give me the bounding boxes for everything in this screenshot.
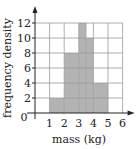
- y-tick-label: 4: [24, 77, 31, 90]
- histogram-bar: [86, 38, 93, 113]
- x-axis-label: mass (kg): [52, 133, 106, 146]
- origin-label: 0: [21, 111, 28, 124]
- y-tick-label: 6: [24, 62, 31, 75]
- histogram-bar: [50, 98, 65, 113]
- y-tick-label: 12: [17, 17, 31, 30]
- y-axis-arrow-icon: [33, 6, 38, 13]
- y-tick-label: 10: [17, 32, 31, 45]
- x-tick-label: 2: [61, 117, 68, 130]
- histogram-chart: 12345624681012 mass (kg) frequency densi…: [0, 0, 137, 149]
- grid-lines: [35, 23, 123, 113]
- y-axis-label: frequency density: [1, 17, 14, 118]
- x-axis-arrow-icon: [128, 111, 135, 116]
- y-tick-label: 2: [24, 92, 31, 105]
- x-tick-label: 5: [105, 117, 112, 130]
- x-tick-label: 4: [90, 117, 97, 130]
- y-tick-label: 8: [24, 47, 31, 60]
- x-tick-label: 1: [46, 117, 53, 130]
- x-tick-label: 3: [75, 117, 82, 130]
- x-tick-label: 6: [119, 117, 126, 130]
